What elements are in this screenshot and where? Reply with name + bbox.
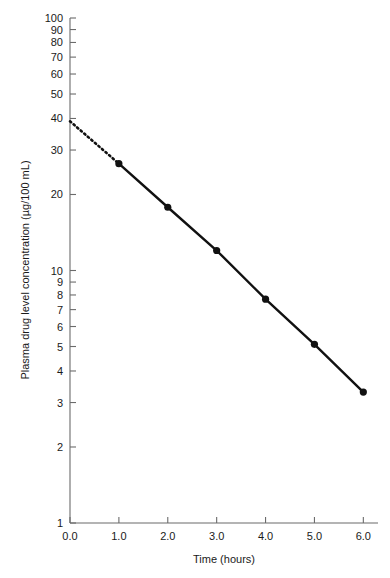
y-tick-label-6: 6 <box>57 321 63 333</box>
y-tick-label-1: 1 <box>57 517 63 529</box>
y-tick-label-7: 7 <box>57 304 63 316</box>
y-tick-label-60: 60 <box>51 68 63 80</box>
data-point-t5 <box>311 341 318 348</box>
y-tick-label-30: 30 <box>51 144 63 156</box>
y-tick-label-3: 3 <box>57 397 63 409</box>
chart-container: 123456789102030405060708090100 0.01.02.0… <box>0 0 390 578</box>
y-axis-ticks <box>70 18 76 523</box>
y-tick-label-2: 2 <box>57 441 63 453</box>
x-tick-label-6.0: 6.0 <box>356 530 371 542</box>
x-tick-label-4.0: 4.0 <box>258 530 273 542</box>
x-tick-label-3.0: 3.0 <box>209 530 224 542</box>
y-tick-label-100: 100 <box>45 12 63 24</box>
y-tick-label-9: 9 <box>57 276 63 288</box>
y-tick-label-70: 70 <box>51 51 63 63</box>
x-tick-label-2.0: 2.0 <box>160 530 175 542</box>
data-point-t2 <box>164 204 171 211</box>
y-tick-label-5: 5 <box>57 341 63 353</box>
x-axis-title: Time (hours) <box>193 553 255 565</box>
semilog-plasma-concentration-chart: 123456789102030405060708090100 0.01.02.0… <box>0 0 390 578</box>
data-point-t6 <box>360 388 367 395</box>
data-point-t3 <box>213 247 220 254</box>
y-tick-label-10: 10 <box>51 265 63 277</box>
y-tick-label-40: 40 <box>51 112 63 124</box>
y-tick-label-90: 90 <box>51 24 63 36</box>
y-tick-label-8: 8 <box>57 289 63 301</box>
data-point-t4 <box>262 296 269 303</box>
data-point-t1 <box>115 160 122 167</box>
y-tick-label-4: 4 <box>57 365 63 377</box>
x-tick-label-5.0: 5.0 <box>307 530 322 542</box>
y-tick-label-80: 80 <box>51 36 63 48</box>
x-tick-label-0.0: 0.0 <box>62 530 77 542</box>
y-tick-label-50: 50 <box>51 88 63 100</box>
y-tick-label-20: 20 <box>51 188 63 200</box>
x-tick-label-1.0: 1.0 <box>111 530 126 542</box>
y-axis-title: Plasma drug level concentration (µg/100 … <box>19 160 31 379</box>
